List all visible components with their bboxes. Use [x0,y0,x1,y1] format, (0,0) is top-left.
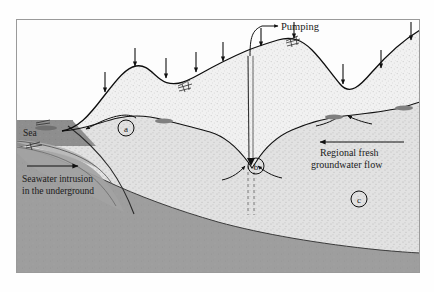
callout-b-label: b [254,162,259,172]
diagram-body: Sea Pumping Regional fresh groundwater f… [16,19,420,273]
spring-seep-icon [155,118,173,123]
callout-c-label: c [357,195,361,205]
spring-seep-icon [325,114,343,119]
spring-seep-icon [395,105,413,110]
intrusion-label-line2: in the underground [22,186,94,196]
sea-surface-seep-icon [35,126,57,131]
intrusion-label-line1: Seawater intrusion [22,174,93,184]
sea-label: Sea [23,128,38,138]
pumping-label: Pumping [281,21,320,32]
regional-flow-label-line1: Regional fresh [320,147,379,158]
regional-flow-label-line2: groundwater flow [311,159,383,170]
diagram-canvas: Sea Pumping Regional fresh groundwater f… [0,0,434,292]
callout-a-label: a [124,124,128,134]
groundwater-cross-section-figure: Sea Pumping Regional fresh groundwater f… [0,0,434,292]
